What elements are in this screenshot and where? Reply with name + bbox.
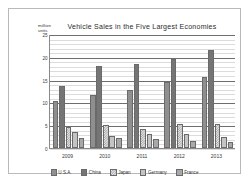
bar-group: [124, 35, 161, 148]
chart-frame: million units Vehicle Sales in the Five …: [8, 8, 241, 174]
legend-label: U.S.A.: [58, 170, 71, 175]
bar: [59, 86, 65, 148]
legend-item[interactable]: China: [81, 169, 101, 175]
y-axis-tick-label: 25: [42, 33, 47, 38]
bar-group: [199, 35, 236, 148]
bar: [164, 82, 170, 148]
bar: [140, 129, 146, 148]
bar: [79, 138, 85, 148]
legend-label: Germany: [148, 170, 167, 175]
bar: [103, 125, 109, 148]
x-axis-tick-label: 2012: [162, 153, 196, 159]
bar: [134, 64, 140, 148]
bar: [96, 66, 102, 148]
x-axis-tick-label: 2010: [88, 153, 122, 159]
bar: [190, 141, 196, 148]
bar: [202, 77, 208, 148]
bar: [221, 137, 227, 148]
bar: [153, 139, 159, 148]
legend-swatch-icon: [140, 169, 146, 175]
bar: [177, 124, 183, 148]
bar: [228, 142, 234, 148]
bar: [53, 101, 59, 148]
legend-item[interactable]: Japan: [110, 169, 130, 175]
bar: [184, 134, 190, 148]
bar: [116, 138, 122, 148]
legend-swatch-icon: [176, 169, 182, 175]
bar: [171, 59, 177, 148]
y-axis-tick-label: 0: [45, 147, 48, 152]
bar: [127, 90, 133, 148]
plot-area: 0510152025: [49, 35, 235, 149]
bar-group: [50, 35, 87, 148]
legend-label: Japan: [118, 170, 131, 175]
legend-item[interactable]: U.S.A.: [51, 169, 72, 175]
bar: [109, 136, 115, 148]
legend-item[interactable]: France: [176, 169, 198, 175]
x-axis-tick-label: 2011: [125, 153, 159, 159]
bar-group: [87, 35, 124, 148]
legend-swatch-icon: [51, 169, 57, 175]
gridline-minor: [50, 149, 235, 150]
legend-label: France: [184, 170, 198, 175]
legend-swatch-icon: [110, 169, 116, 175]
bar: [208, 50, 214, 148]
x-axis-tick-label: 2013: [199, 153, 233, 159]
chart-title: Vehicle Sales in the Five Largest Econom…: [67, 23, 217, 30]
y-axis-tick-label: 10: [42, 101, 47, 106]
bar: [215, 124, 221, 148]
bar: [147, 134, 153, 148]
legend-label: China: [89, 170, 101, 175]
legend-swatch-icon: [81, 169, 87, 175]
bar: [66, 127, 72, 148]
chart-legend: U.S.A.ChinaJapanGermanyFrance: [17, 167, 232, 178]
bar: [90, 95, 96, 148]
legend-item[interactable]: Germany: [140, 169, 167, 175]
y-axis-tick-label: 5: [45, 124, 48, 129]
x-axis-tick-label: 2009: [51, 153, 85, 159]
y-axis-tick-label: 15: [42, 78, 47, 83]
bar-group: [162, 35, 199, 148]
y-axis-tick-label: 20: [42, 55, 47, 60]
bar: [72, 132, 78, 148]
